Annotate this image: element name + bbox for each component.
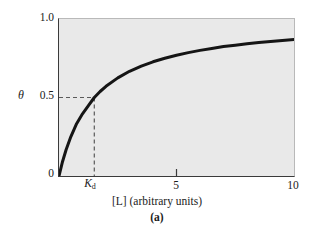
y-tick-label-0: 0 — [28, 168, 54, 180]
kd-symbol: K — [84, 177, 92, 189]
y-tick-label-0-5: 0.5 — [28, 90, 54, 102]
panel-label: (a) — [0, 212, 314, 224]
y-tick-label-1: 1.0 — [28, 12, 54, 24]
x-axis-title: [L] (arbitrary units) — [0, 196, 314, 208]
y-axis-symbol: θ — [14, 89, 28, 101]
x-tick-label-10: 10 — [283, 180, 303, 192]
x-tick-label-5: 5 — [166, 180, 186, 192]
binding-curve-figure: θ 1.0 0.5 0 Kd 5 10 [L] (arbitrary units… — [0, 0, 314, 232]
plot-area — [58, 18, 295, 177]
kd-subscript: d — [92, 182, 96, 191]
x-tick-label-kd: Kd — [70, 178, 110, 190]
plot-canvas — [59, 19, 294, 176]
